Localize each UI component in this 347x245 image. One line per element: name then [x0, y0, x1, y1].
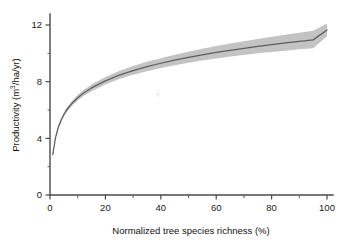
y-axis-title: Productivity (m3/ha/yr) — [9, 58, 21, 151]
x-tick-label: 80 — [266, 202, 277, 213]
y-tick-label: 4 — [37, 133, 42, 144]
scan-artifact-dot — [155, 94, 160, 95]
y-axis-title-suffix: /ha/yr) — [10, 58, 21, 85]
y-tick-label: 8 — [37, 76, 42, 87]
x-tick-label: 0 — [47, 202, 52, 213]
y-tick-label: 0 — [37, 189, 42, 200]
x-tick-label: 40 — [156, 202, 167, 213]
x-tick-label: 100 — [319, 202, 335, 213]
productivity-richness-chart: 04812 020406080100 Normalized tree speci… — [0, 0, 347, 245]
y-axis-title-prefix: Productivity (m — [10, 89, 21, 152]
x-tick-label: 60 — [211, 202, 222, 213]
x-axis-tick-labels: 020406080100 — [47, 202, 335, 213]
y-axis-tick-labels: 04812 — [31, 19, 42, 200]
figure-container: 04812 020406080100 Normalized tree speci… — [0, 0, 347, 245]
x-axis-title: Normalized tree species richness (%) — [112, 225, 269, 236]
y-tick-label: 12 — [31, 19, 42, 30]
x-tick-label: 20 — [100, 202, 111, 213]
